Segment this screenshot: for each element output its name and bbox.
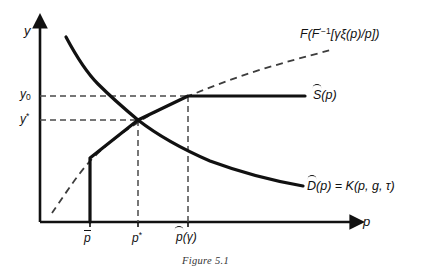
demand-base: D <box>307 180 316 193</box>
ystar-superscript: * <box>26 111 29 121</box>
phat-suffix: (γ) <box>183 230 197 244</box>
x-tick-label-pstar: p* <box>132 231 142 244</box>
pstar-superscript: * <box>139 230 142 240</box>
x-axis-label: p <box>363 215 370 228</box>
x-tick-label-pbar: p <box>84 231 91 244</box>
pbar-base: p <box>84 231 91 244</box>
demand-suffix: (p) = K(p, g, τ) <box>316 179 395 193</box>
supply-curve <box>90 96 305 222</box>
x-tick-label-phat: p(γ) <box>176 231 197 243</box>
y0-subscript: 0 <box>26 92 31 102</box>
reference-exponent: '−1 <box>319 26 330 36</box>
demand-curve <box>66 37 303 186</box>
reference-curve-dashed <box>52 50 331 213</box>
pstar-base: p <box>132 231 139 245</box>
figure-caption: Figure 5.1 <box>182 255 229 266</box>
supply-base: S <box>313 89 321 102</box>
supply-suffix: (p) <box>321 88 336 102</box>
phat-base: p <box>176 231 183 243</box>
figure-container: y p y0 y* p p* p(γ) F(F'−1[γξ(p)/p]) S(p… <box>0 0 433 275</box>
y-tick-label-y0: y0 <box>20 88 31 101</box>
reference-prefix: F(F <box>300 27 319 41</box>
supply-curve-label: S(p) <box>313 89 337 102</box>
reference-bracket: [γξ(p)/p]) <box>331 27 380 41</box>
y-tick-label-ystar: y* <box>20 112 29 125</box>
y-axis-label: y <box>24 24 31 37</box>
demand-curve-label: D(p) = K(p, g, τ) <box>307 180 395 193</box>
plot-svg <box>0 0 433 275</box>
reference-curve-label: F(F'−1[γξ(p)/p]) <box>300 27 379 40</box>
